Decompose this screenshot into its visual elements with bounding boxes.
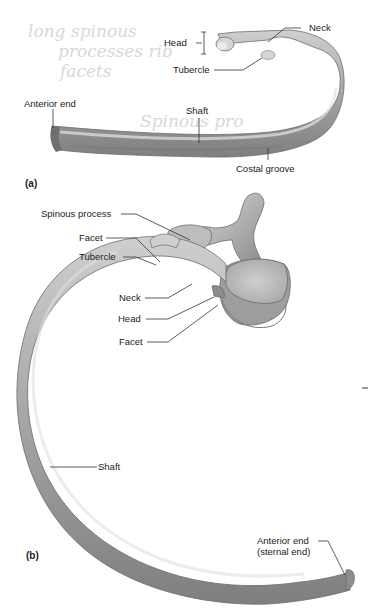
label-tubercle-b: Tubercle: [79, 251, 116, 262]
label-sternal-end: (sternal end): [257, 546, 310, 557]
rib-anatomy-figure: long spinous processes rib facets Spinou…: [0, 0, 368, 614]
label-anterior-end-a: Anterior end: [24, 98, 76, 109]
label-head-b: Head: [118, 313, 141, 324]
label-shaft-a: Shaft: [186, 105, 208, 116]
label-neck-a: Neck: [309, 22, 331, 33]
label-spinous-process: Spinous process: [41, 208, 111, 219]
label-neck-b: Neck: [119, 292, 141, 303]
label-facet-upper: Facet: [79, 232, 103, 243]
label-facet-lower: Facet: [119, 336, 143, 347]
label-tubercle-a: Tubercle: [173, 64, 210, 75]
panel-tag-a: (a): [25, 178, 37, 189]
label-anterior-end-b: Anterior end: [257, 535, 309, 546]
rib-a: [50, 30, 344, 157]
vertebra-b: [168, 193, 290, 327]
rib-illustration: [0, 0, 368, 614]
panel-tag-b: (b): [26, 550, 39, 561]
label-head-a: Head: [164, 37, 187, 48]
label-costal-groove: Costal groove: [236, 163, 295, 174]
label-shaft-b: Shaft: [98, 461, 120, 472]
